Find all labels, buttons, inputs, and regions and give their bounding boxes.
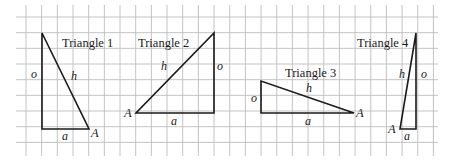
- triangle-3-opposite-label: o: [251, 91, 257, 105]
- triangle-4-opposite-label: o: [421, 67, 427, 81]
- graph-paper-grid: [16, 5, 438, 156]
- triangle-2-adjacent-label: a: [171, 114, 177, 128]
- triangle-1-adjacent-label: a: [62, 129, 68, 143]
- triangle-1-opposite-label: o: [31, 67, 37, 81]
- triangle-3: Triangle 3 o h a A: [251, 66, 364, 128]
- triangle-4-angle-label: A: [387, 122, 396, 136]
- triangle-1-title: Triangle 1: [62, 36, 113, 50]
- triangle-3-title: Triangle 3: [285, 66, 336, 80]
- triangle-2-title: Triangle 2: [138, 36, 189, 50]
- triangle-2-hypotenuse-label: h: [161, 59, 167, 73]
- triangle-4-adjacent-label: a: [404, 129, 410, 143]
- triangle-3-adjacent-label: a: [305, 114, 311, 128]
- triangle-1-hypotenuse-label: h: [71, 69, 77, 83]
- triangle-3-angle-label: A: [355, 106, 364, 120]
- triangle-2-opposite-label: o: [217, 59, 223, 73]
- triangles-diagram: Triangle 1 o h a A Triangle 2 o h a A Tr…: [0, 0, 452, 160]
- triangle-4-title: Triangle 4: [357, 36, 409, 50]
- triangle-2: Triangle 2 o h a A: [123, 33, 223, 128]
- triangle-4-hypotenuse-label: h: [399, 67, 405, 81]
- triangle-2-angle-label: A: [123, 106, 132, 120]
- triangle-1-angle-label: A: [90, 126, 99, 140]
- triangle-3-hypotenuse-label: h: [306, 81, 312, 95]
